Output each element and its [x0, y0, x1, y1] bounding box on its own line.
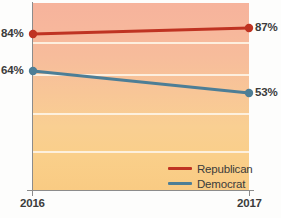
legend-swatch-republican — [168, 167, 192, 170]
y-axis-line — [32, 2, 33, 191]
democrat-label-2016: 64% — [1, 64, 23, 76]
legend-label-democrat: Democrat — [197, 178, 245, 190]
legend-swatch-democrat — [168, 182, 192, 185]
x-axis-tick-2016 — [32, 190, 33, 196]
gridline — [33, 113, 249, 115]
republican-label-2017: 87% — [255, 21, 277, 33]
legend: Republican Democrat — [168, 161, 253, 191]
gridline — [33, 74, 249, 76]
x-tick-label-2016: 2016 — [20, 197, 45, 209]
gridline — [33, 151, 249, 153]
line-chart: 84% 64% 87% 53% 2016 2017 Republican Dem… — [0, 0, 281, 218]
gridline — [33, 42, 249, 44]
republican-label-2016: 84% — [1, 27, 23, 39]
x-tick-label-2017: 2017 — [237, 197, 262, 209]
legend-label-republican: Republican — [197, 163, 253, 175]
democrat-label-2017: 53% — [255, 86, 277, 98]
legend-item-democrat: Democrat — [168, 176, 253, 191]
legend-item-republican: Republican — [168, 161, 253, 176]
